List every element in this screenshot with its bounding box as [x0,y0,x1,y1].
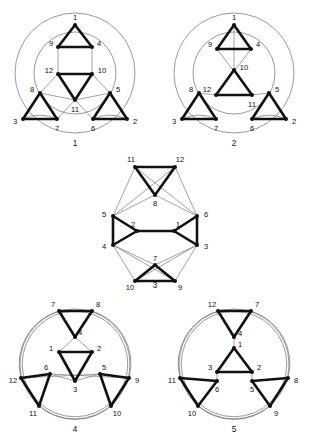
graph-3-node-11 [133,165,137,169]
graph-1-thick-edge-1-9 [58,25,75,47]
graph-1-node-2 [125,117,129,121]
graph-5-node-6 [215,379,219,383]
graph-5-node-3 [215,370,219,374]
graph-2: 1941012118537622 [172,13,296,148]
graph-2-node-12 [214,93,218,97]
graph-1-node-label-2: 2 [133,117,137,126]
graph-2-node-6 [250,117,254,121]
graph-1-node-3 [21,117,25,121]
graph-5-node-9 [268,404,272,408]
graph-5-node-7 [249,309,253,313]
graph-4-node-8 [90,309,94,313]
graph-4-node-label-7: 7 [51,300,55,309]
graph-5-thick-edge-1-3 [217,348,234,372]
graph-2-node-label-3: 3 [172,117,176,126]
graph-3-node-4 [111,243,115,247]
graph-5-node-label-5: 5 [250,385,254,394]
graph-4-node-3 [73,379,77,383]
graph-5-node-2 [250,370,254,374]
graph-4-node-label-11: 11 [29,409,37,418]
graph-1-thick-edge-10-11 [75,74,92,100]
graph-2-node-label-11: 11 [248,100,256,109]
graph-4-thick-edge-1-3 [59,352,75,381]
graph-2-thick-edge-1-4 [234,25,251,49]
graph-4-node-4 [73,335,77,339]
graph-2-node-label-9: 9 [208,40,212,49]
graph-1-caption: 1 [73,139,78,148]
graph-1-node-label-1: 1 [73,13,77,22]
graph-5-node-label-9: 9 [274,409,278,418]
graph-3-node-6 [195,214,199,218]
graph-3-thick-edge-3-1 [174,231,197,245]
graph-5-node-1 [232,346,236,350]
graph-3-caption: 3 [153,281,158,290]
graph-3-node-label-12: 12 [176,155,184,164]
graph-3-node-12 [173,165,177,169]
graph-4-node-label-4: 4 [78,328,82,337]
graph-5-thick-edge-11-10 [180,378,198,406]
graph-5-thick-edge-5-9 [252,381,270,406]
graph-2-node-10 [232,68,236,72]
graph-2-node-11 [250,93,254,97]
graph-4-thick-edge-9-10 [111,378,129,406]
graph-2-node-label-8: 8 [189,85,193,94]
graph-3-node-label-3: 3 [204,242,208,251]
graph-5-node-5 [250,379,254,383]
graph-1-node-8 [38,91,42,95]
graph-3-node-label-7: 7 [153,254,157,263]
graph-5-node-label-1: 1 [238,340,242,349]
graph-1-node-5 [108,91,112,95]
graph-5-node-label-10: 10 [188,409,196,418]
graph-3-node-label-9: 9 [178,283,182,292]
graph-3-node-1 [172,229,176,233]
graph-1-node-6 [91,117,95,121]
graph-4-node-label-3: 3 [73,385,77,394]
graph-5-node-label-8: 8 [294,376,298,385]
graph-4-node-2 [90,350,94,354]
graph-3-node-label-10: 10 [126,283,134,292]
graph-5: 1274132651181095 [168,300,298,434]
graph-4-thick-edge-7-4 [59,311,75,337]
graph-3-node-label-5: 5 [102,210,106,219]
graph-1-node-10 [90,72,94,76]
graph-figure-svg: 1941210118537621194101211853762211128562… [0,0,309,443]
graph-2-caption: 2 [232,139,237,148]
graph-4-node-label-8: 8 [96,300,100,309]
graph-1-node-label-7: 7 [55,124,59,133]
graph-4-node-1 [57,350,61,354]
graph-2-node-label-4: 4 [256,40,260,49]
graph-1-thick-edge-1-4 [75,25,92,47]
graph-3-node-8 [153,193,157,197]
graph-2-node-label-1: 1 [232,13,236,22]
graph-2-node-9 [215,47,219,51]
graph-1-node-label-3: 3 [13,117,17,126]
graph-3-node-7 [153,263,157,267]
graph-2-node-label-5: 5 [275,85,279,94]
graph-3-edge-8-6 [155,195,197,216]
graph-3-node-label-1: 1 [176,220,180,229]
graph-3-node-label-6: 6 [204,210,208,219]
graph-2-node-4 [249,47,253,51]
graph-4-node-9 [127,376,131,380]
graph-1-thick-edge-12-11 [58,74,75,100]
graph-3-node-2 [135,229,139,233]
graph-3-thick-edge-7-10 [135,265,155,281]
graph-5-node-8 [286,376,290,380]
graph-3-node-3 [195,243,199,247]
graph-4-node-5 [98,372,102,376]
graph-5-node-label-4: 4 [238,329,242,338]
graph-4-thick-edge-5-10 [100,374,111,406]
graph-5-thick-edge-11-6 [180,378,217,381]
graph-3-node-label-4: 4 [102,242,106,251]
graph-4-node-label-5: 5 [102,363,106,372]
graph-5-node-10 [196,404,200,408]
graph-3-node-9 [173,279,177,283]
graph-2-node-label-2: 2 [292,117,296,126]
graph-2-node-label-6: 6 [250,124,254,133]
graph-3-node-label-8: 8 [153,199,157,208]
graph-4-thick-edge-6-11 [39,374,50,406]
graph-1-edge-8-12 [40,74,58,93]
graph-1-node-7 [55,117,59,121]
graph-4-node-label-6: 6 [44,363,48,372]
graph-2-node-label-12: 12 [203,85,211,94]
